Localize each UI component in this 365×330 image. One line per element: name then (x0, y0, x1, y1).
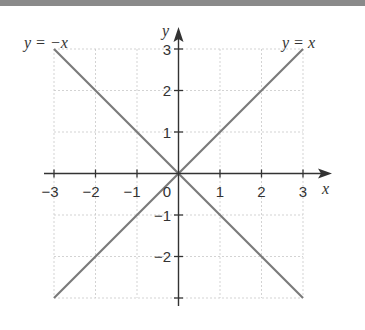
x-tick-label: −2 (82, 183, 99, 200)
y-tick-label: −2 (154, 248, 171, 265)
chart: −3 −2 −1 0 1 2 3 3 2 1 −1 −2 x y y = −x … (0, 0, 365, 330)
y-tick-label: 3 (163, 41, 171, 58)
x-tick-label: −1 (123, 183, 140, 200)
annotation-y-equals-neg-x: y = −x (22, 34, 68, 52)
x-tick-label: 3 (299, 183, 307, 200)
x-axis-label: x (321, 180, 329, 197)
y-tick-label: −1 (154, 207, 171, 224)
x-tick-label: −3 (41, 183, 58, 200)
x-tick-label: 1 (216, 183, 224, 200)
y-tick-label: 2 (163, 82, 171, 99)
x-tick-label: 0 (163, 183, 171, 200)
annotation-y-equals-x: y = x (280, 34, 315, 52)
y-tick-label: 1 (163, 124, 171, 141)
y-axis-label: y (160, 22, 170, 40)
x-tick-label: 2 (257, 183, 265, 200)
